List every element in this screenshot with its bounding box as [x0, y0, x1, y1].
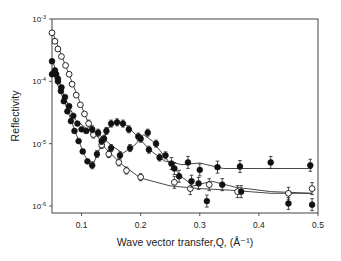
- data-points: [49, 30, 315, 211]
- open-circle-point: [309, 186, 315, 192]
- filled-circle-point: [55, 76, 61, 82]
- open-circle-point: [77, 102, 83, 108]
- filled-circle-point: [70, 113, 76, 119]
- open-circle-point: [138, 174, 144, 180]
- filled-circle-point: [197, 167, 203, 173]
- open-circle-point: [187, 186, 193, 192]
- filled-circle-point: [127, 145, 133, 151]
- filled-circle-point: [204, 198, 210, 204]
- x-tick-label: 0.5: [312, 220, 324, 230]
- filled-circle-point: [117, 152, 123, 158]
- open-circle-point: [82, 111, 88, 117]
- filled-circle-point: [176, 173, 182, 179]
- filled-circle-point: [108, 121, 114, 127]
- x-axis-label: Wave vector transfer,Q, (Å⁻¹): [117, 236, 253, 248]
- y-tick-label: 10-4: [32, 76, 46, 86]
- plot-frame: [52, 19, 318, 213]
- x-tick-label: 0.2: [135, 220, 147, 230]
- filled-circle-point: [153, 141, 159, 147]
- open-circle-point: [73, 92, 79, 98]
- filled-circle-point: [108, 145, 114, 151]
- open-circle-point: [52, 38, 58, 44]
- open-circle-point: [206, 182, 212, 188]
- filled-circle-point: [145, 130, 151, 136]
- open-circle-point: [286, 190, 292, 196]
- y-axis-label: Reflectivity: [9, 90, 21, 142]
- x-tick-label: 0.1: [76, 220, 88, 230]
- x-tick-label: 0.3: [194, 220, 206, 230]
- chart-canvas: 0.10.20.30.40.510-310-410-510-6 Wave vec…: [0, 0, 341, 261]
- open-circle-point: [66, 71, 72, 77]
- filled-circle-point: [59, 84, 65, 90]
- filled-circle-point: [120, 121, 126, 127]
- filled-circle-point: [163, 152, 169, 158]
- open-circle-point: [171, 179, 177, 185]
- filled-circle-point: [85, 158, 91, 164]
- filled-circle-point: [146, 147, 152, 153]
- filled-circle-point: [307, 162, 313, 168]
- filled-circle-point: [72, 128, 78, 134]
- filled-circle-point: [76, 138, 82, 144]
- filled-circle-point: [83, 128, 89, 134]
- x-tick-label: 0.4: [253, 220, 265, 230]
- filled-circle-point: [52, 67, 58, 73]
- y-tick-label: 10-5: [32, 139, 46, 149]
- filled-circle-point: [185, 160, 191, 166]
- open-circle-point: [49, 30, 55, 36]
- open-circle-point: [63, 63, 69, 69]
- open-circle-point: [69, 81, 75, 87]
- fit-curve-2: [52, 70, 312, 168]
- reflectivity-chart: 0.10.20.30.40.510-310-410-510-6 Wave vec…: [0, 0, 341, 261]
- filled-circle-point: [95, 130, 101, 136]
- filled-circle-point: [268, 160, 274, 166]
- filled-circle-point: [68, 118, 74, 124]
- filled-circle-point: [286, 201, 292, 207]
- filled-circle-point: [89, 126, 95, 132]
- filled-circle-point: [126, 126, 132, 132]
- filled-circle-point: [62, 94, 68, 100]
- filled-circle-point: [237, 164, 243, 170]
- filled-circle-point: [219, 182, 225, 188]
- filled-circle-point: [171, 166, 177, 172]
- filled-circle-point: [189, 178, 195, 184]
- filled-circle-point: [157, 155, 163, 161]
- filled-circle-point: [49, 58, 55, 64]
- filled-circle-point: [80, 149, 86, 155]
- filled-circle-point: [89, 162, 95, 168]
- y-tick-label: 10-3: [32, 14, 46, 24]
- open-circle-point: [59, 54, 65, 60]
- open-circle-point: [55, 46, 61, 52]
- filled-circle-point: [94, 151, 100, 157]
- filled-circle-point: [309, 202, 315, 208]
- open-circle-point: [106, 151, 112, 157]
- filled-circle-point: [75, 121, 81, 127]
- filled-circle-point: [66, 103, 72, 109]
- open-circle-point: [124, 168, 130, 174]
- filled-circle-point: [114, 119, 120, 125]
- filled-circle-point: [238, 189, 244, 195]
- filled-circle-point: [101, 136, 107, 142]
- filled-circle-point: [103, 128, 109, 134]
- y-tick-label: 10-6: [32, 201, 46, 211]
- filled-circle-point: [196, 181, 202, 187]
- filled-circle-point: [138, 136, 144, 142]
- open-circle-point: [116, 160, 122, 166]
- filled-circle-point: [215, 164, 221, 170]
